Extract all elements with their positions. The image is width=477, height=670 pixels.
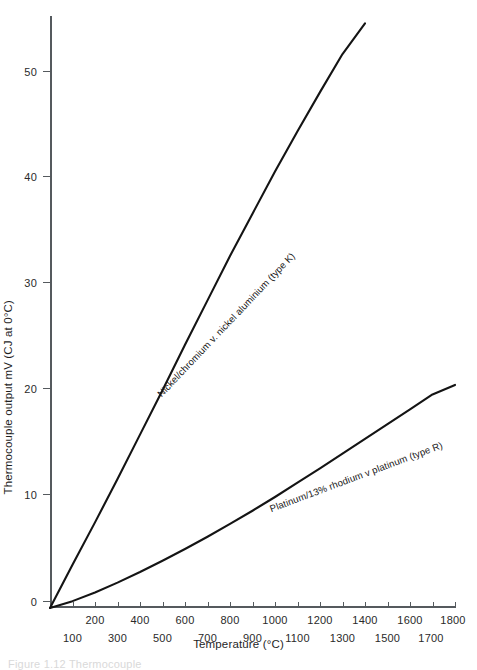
curve-type-r	[50, 385, 455, 608]
y-tick-label-0: 0	[31, 596, 37, 608]
x-tick-label-200: 200	[86, 614, 105, 626]
figure-caption: Figure 1.12 Thermocouple	[8, 658, 142, 670]
x-tick-label-600: 600	[176, 614, 195, 626]
x-tick-label-1400: 1400	[352, 614, 377, 626]
y-tick-label-50: 50	[24, 66, 37, 78]
x-tick-label-800: 800	[221, 614, 240, 626]
x-tick-label-1000: 1000	[262, 614, 287, 626]
thermocouple-output-chart: 50 40 30 20 10 0	[0, 0, 477, 670]
x-tick-label-1200: 1200	[307, 614, 332, 626]
y-tick-label-10: 10	[24, 489, 37, 501]
curve-type-k	[50, 23, 365, 608]
y-tick-label-30: 30	[24, 277, 37, 289]
series-curves	[50, 16, 455, 608]
x-tick-label-400: 400	[131, 614, 150, 626]
y-tick-label-20: 20	[24, 383, 37, 395]
x-axis-title: Temperature (°C)	[0, 638, 477, 650]
x-tick-label-1600: 1600	[397, 614, 422, 626]
y-tick-label-40: 40	[24, 171, 37, 183]
y-axis-title: Thermocouple output mV (CJ at 0°C)	[2, 300, 14, 494]
x-tick-label-1800: 1800	[440, 614, 465, 626]
x-tick-1800	[455, 602, 456, 608]
plot-area: 50 40 30 20 10 0	[50, 16, 455, 608]
